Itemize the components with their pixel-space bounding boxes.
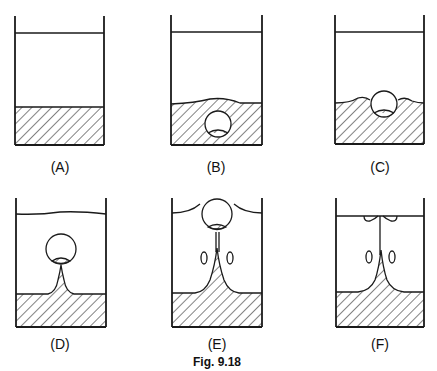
panel-e-label: (E) — [187, 336, 247, 352]
panel-d-beaker — [16, 198, 106, 327]
panel-e-beaker — [172, 198, 262, 327]
panel-f-beaker — [336, 198, 424, 327]
panel-c-beaker — [335, 15, 424, 144]
figure-caption: Fig. 9.18 — [177, 355, 257, 369]
figure-canvas — [0, 0, 437, 371]
panel-c-label: (C) — [350, 159, 410, 175]
panel-a-beaker — [15, 16, 104, 145]
panel-a-label: (A) — [30, 159, 90, 175]
panel-d-label: (D) — [30, 336, 90, 352]
panel-f-label: (F) — [350, 336, 410, 352]
panel-b-beaker — [171, 15, 262, 145]
panel-b-label: (B) — [186, 159, 246, 175]
